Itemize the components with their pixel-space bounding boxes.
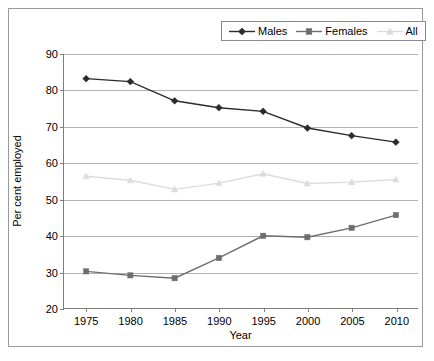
data-point-marker — [84, 269, 89, 274]
x-tick-label: 1980 — [118, 315, 142, 327]
x-axis-title: Year — [63, 329, 418, 341]
x-tick-label: 1985 — [163, 315, 187, 327]
data-point-marker — [238, 27, 245, 34]
x-tick-label: 2005 — [340, 315, 364, 327]
x-tick-label: 1990 — [207, 315, 231, 327]
data-point-marker — [216, 255, 221, 260]
x-tick-label: 2010 — [385, 315, 409, 327]
x-tick-mark — [86, 308, 87, 312]
x-tick-mark — [352, 308, 353, 312]
y-tick-label: 80 — [46, 84, 58, 96]
data-point-marker — [171, 97, 178, 104]
y-tick-label: 40 — [46, 230, 58, 242]
chart-frame: Per cent employed Year 2030405060708090 … — [8, 8, 423, 347]
x-tick-label: 1975 — [74, 315, 98, 327]
series-females — [84, 213, 399, 281]
data-point-marker — [128, 273, 133, 278]
y-tick-label: 30 — [46, 267, 58, 279]
y-tick-label: 20 — [46, 303, 58, 315]
series-plot — [64, 54, 418, 308]
data-point-marker — [392, 139, 399, 146]
y-tick-mark — [60, 309, 64, 310]
x-tick-mark — [175, 308, 176, 312]
x-tick-mark — [131, 308, 132, 312]
x-tick-mark — [308, 308, 309, 312]
series-line — [86, 79, 396, 143]
data-point-marker — [261, 233, 266, 238]
legend-label: Females — [325, 25, 367, 37]
legend-item-males[interactable]: Males — [229, 25, 287, 37]
legend-item-females[interactable]: Females — [296, 25, 367, 37]
legend-item-all[interactable]: All — [377, 25, 418, 37]
x-tick-label: 1995 — [251, 315, 275, 327]
data-point-marker — [304, 125, 311, 132]
data-point-marker — [393, 213, 398, 218]
legend-label: All — [406, 25, 418, 37]
x-tick-mark — [397, 308, 398, 312]
males-diamond-icon — [229, 26, 255, 37]
y-axis-title: Per cent employed — [11, 135, 23, 227]
y-tick-label: 70 — [46, 121, 58, 133]
data-point-marker — [348, 132, 355, 139]
plot-area: 2030405060708090 19751980198519901995200… — [63, 54, 418, 309]
data-point-marker — [127, 78, 134, 85]
females-square-icon — [296, 26, 322, 37]
series-males — [83, 75, 400, 145]
y-tick-label: 90 — [46, 48, 58, 60]
chart-legend: MalesFemalesAll — [221, 21, 426, 41]
data-point-marker — [83, 75, 90, 82]
data-point-marker — [305, 235, 310, 240]
data-point-marker — [215, 104, 222, 111]
all-triangle-icon — [377, 26, 403, 37]
x-tick-mark — [219, 308, 220, 312]
x-tick-label: 2000 — [296, 315, 320, 327]
y-tick-label: 50 — [46, 194, 58, 206]
data-point-marker — [349, 225, 354, 230]
series-line — [86, 215, 396, 278]
x-tick-mark — [264, 308, 265, 312]
series-all — [83, 171, 399, 192]
legend-label: Males — [258, 25, 287, 37]
data-point-marker — [260, 108, 267, 115]
y-tick-label: 60 — [46, 157, 58, 169]
data-point-marker — [260, 171, 266, 177]
data-point-marker — [307, 28, 313, 34]
data-point-marker — [172, 276, 177, 281]
